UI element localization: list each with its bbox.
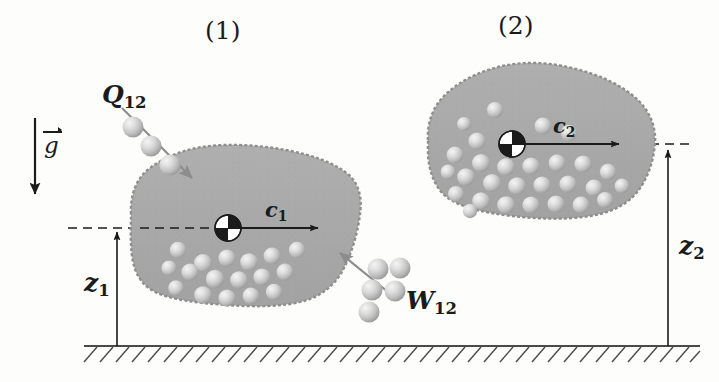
height-2-subscript: 2	[693, 244, 704, 263]
velocity-1-label: c1	[265, 199, 287, 224]
work-particle	[390, 258, 411, 279]
velocity-1-symbol: c	[265, 197, 278, 222]
height-2-symbol: z	[679, 231, 693, 260]
work-symbol: W	[406, 286, 434, 315]
height-2-label: z2	[679, 233, 705, 262]
heat-symbol: Q	[102, 80, 124, 109]
height-1-symbol: z	[84, 268, 98, 297]
ground	[84, 346, 700, 362]
work-particle	[359, 302, 380, 323]
body-2	[428, 63, 655, 219]
work-subscript: 12	[434, 299, 457, 318]
velocity-2-subscript: 2	[566, 124, 576, 140]
ground-hatching	[84, 347, 700, 362]
gravity-label: g	[44, 134, 59, 157]
heat-label: Q12	[102, 82, 146, 111]
work-particle	[385, 281, 406, 302]
work-particle	[368, 259, 389, 280]
heat-particle	[123, 117, 144, 138]
diagram-canvas	[0, 0, 719, 382]
work-stream	[340, 253, 411, 323]
gravity-symbol: g	[44, 134, 59, 157]
heat-particle	[160, 155, 181, 176]
heat-subscript: 12	[124, 93, 147, 112]
work-label: W12	[406, 288, 457, 317]
state-2-label: (2)	[498, 13, 533, 38]
velocity-2-symbol: c	[553, 113, 566, 138]
work-particle	[362, 280, 383, 301]
velocity-1-subscript: 1	[278, 208, 288, 224]
height-1-subscript: 1	[98, 281, 109, 300]
velocity-2-label: c2	[553, 115, 575, 140]
state-1-label: (1)	[205, 18, 240, 43]
thermodynamics-energy-balance-figure: (1) (2) g Q12 W12 c1 c2 z1 z2	[0, 0, 719, 382]
heat-particle	[141, 136, 162, 157]
height-1-label: z1	[84, 270, 110, 299]
